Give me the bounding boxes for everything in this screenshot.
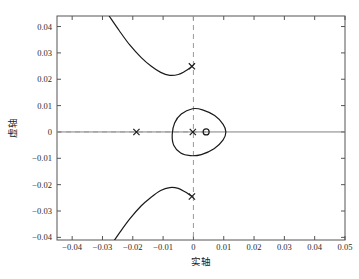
- x-tick-label: 0.03: [277, 242, 292, 252]
- x-tick-label: 0.02: [247, 242, 262, 252]
- y-tick-label: 0.03: [37, 48, 52, 58]
- x-tick-label: 0.05: [338, 242, 353, 252]
- y-tick-label: 0.02: [37, 74, 52, 84]
- y-tick-label: −0.02: [32, 180, 52, 190]
- plot-frame: [57, 16, 345, 240]
- x-tick-label: −0.02: [123, 242, 143, 252]
- y-tick-label: −0.04: [32, 232, 52, 242]
- y-tick-label: 0.04: [37, 22, 53, 32]
- root-locus-chart: −0.04−0.03−0.02−0.0100.010.020.030.040.0…: [0, 0, 359, 279]
- y-tick-label: −0.01: [32, 153, 52, 163]
- y-tick-label: 0: [48, 127, 52, 137]
- x-axis-title: 实轴: [191, 256, 211, 267]
- y-axis-title: 虚轴: [7, 118, 18, 138]
- x-tick-label: 0.04: [307, 242, 323, 252]
- y-tick-label: −0.03: [32, 206, 52, 216]
- x-tick-label: −0.03: [93, 242, 113, 252]
- x-tick-label: −0.04: [62, 242, 82, 252]
- x-tick-label: 0: [191, 242, 195, 252]
- x-tick-label: 0.01: [216, 242, 231, 252]
- x-tick-label: −0.01: [153, 242, 173, 252]
- y-tick-label: 0.01: [37, 101, 52, 111]
- root-plot-container: −0.04−0.03−0.02−0.0100.010.020.030.040.0…: [0, 0, 359, 279]
